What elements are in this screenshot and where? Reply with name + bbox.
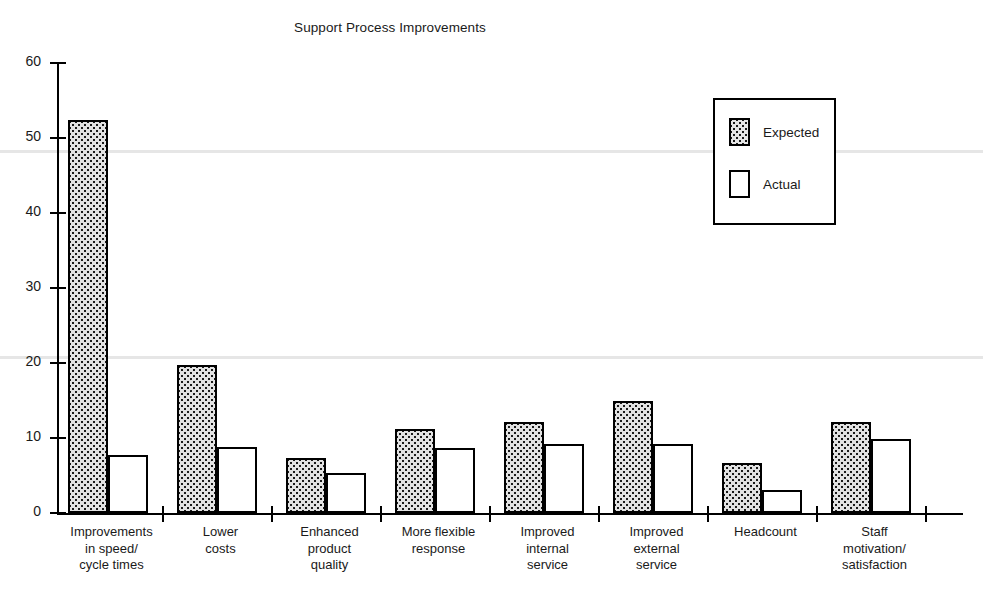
y-tick-label-30: 30 — [25, 278, 41, 294]
bar-actual-8 — [871, 439, 911, 513]
bar-expected-2 — [177, 365, 217, 513]
y-tick-0: 0 — [50, 512, 66, 514]
bar-actual-2 — [217, 447, 257, 513]
bar-expected-5 — [504, 422, 544, 513]
category-label-1: Improvements in speed/ cycle times — [57, 524, 166, 574]
x-group-tick — [271, 506, 273, 522]
bar-actual-7 — [762, 490, 802, 513]
bar-chart: Support Process Improvements 60 50 40 30… — [0, 0, 983, 607]
x-group-tick — [598, 506, 600, 522]
legend-item-actual: Actual — [729, 170, 801, 198]
legend-label-actual: Actual — [763, 177, 801, 192]
category-label-4: More flexible response — [384, 524, 493, 557]
bar-actual-4 — [435, 448, 475, 513]
bar-expected-4 — [395, 429, 435, 513]
x-group-tick — [489, 506, 491, 522]
bar-actual-1 — [108, 455, 148, 513]
y-tick-label-50: 50 — [25, 128, 41, 144]
bar-actual-6 — [653, 444, 693, 513]
category-label-7: Headcount — [711, 524, 820, 541]
x-group-tick — [816, 506, 818, 522]
y-tick-label-0: 0 — [33, 503, 41, 519]
bar-expected-1 — [68, 120, 108, 513]
bar-expected-7 — [722, 463, 762, 513]
bar-actual-5 — [544, 444, 584, 513]
legend-swatch-expected-icon — [729, 118, 750, 146]
y-tick-40: 40 — [50, 212, 66, 214]
bar-expected-8 — [831, 422, 871, 514]
y-tick-50: 50 — [50, 137, 66, 139]
y-tick-label-20: 20 — [25, 353, 41, 369]
bar-expected-6 — [613, 401, 653, 513]
y-tick-20: 20 — [50, 362, 66, 364]
x-group-tick — [380, 506, 382, 522]
chart-title: Support Process Improvements — [0, 20, 780, 35]
plot-area: 60 50 40 30 20 10 0 — [57, 63, 983, 513]
y-tick-30: 30 — [50, 287, 66, 289]
bar-actual-3 — [326, 473, 366, 514]
x-group-tick — [925, 506, 927, 522]
x-group-tick — [707, 506, 709, 522]
x-group-tick — [162, 506, 164, 522]
category-label-2: Lower costs — [166, 524, 275, 557]
x-axis-line — [57, 513, 963, 515]
y-tick-label-60: 60 — [25, 53, 41, 69]
category-label-8: Staff motivation/ satisfaction — [820, 524, 929, 574]
y-tick-60: 60 — [50, 62, 66, 64]
category-label-6: Improved external service — [602, 524, 711, 574]
category-label-5: Improved internal service — [493, 524, 602, 574]
bar-expected-3 — [286, 458, 326, 513]
category-label-3: Enhanced product quality — [275, 524, 384, 574]
legend-swatch-actual-icon — [729, 170, 750, 198]
legend-label-expected: Expected — [763, 125, 819, 140]
y-tick-label-40: 40 — [25, 203, 41, 219]
legend: Expected Actual — [713, 98, 836, 225]
y-tick-10: 10 — [50, 437, 66, 439]
legend-item-expected: Expected — [729, 118, 819, 146]
y-tick-label-10: 10 — [25, 428, 41, 444]
